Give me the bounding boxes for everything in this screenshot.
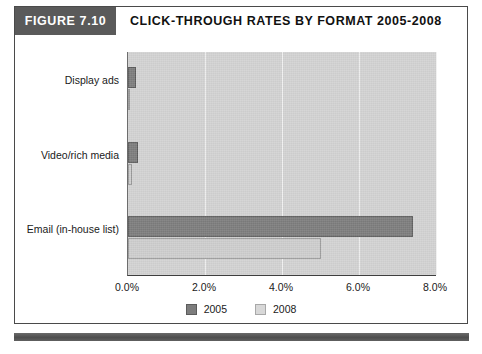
bar-2005-email-in-house-list bbox=[128, 216, 413, 237]
bar-2005-display-ads bbox=[128, 67, 136, 88]
bar-group bbox=[128, 142, 436, 186]
figure-number-badge: FIGURE 7.10 bbox=[15, 7, 116, 35]
figure-container: FIGURE 7.10 CLICK-THROUGH RATES BY FORMA… bbox=[14, 6, 468, 336]
bar-2008-display-ads bbox=[128, 89, 130, 110]
x-tick-label: 4.0% bbox=[251, 281, 311, 293]
page-footer-rule bbox=[14, 333, 469, 341]
legend-item-2005: 2005 bbox=[186, 303, 227, 315]
category-label: Display ads bbox=[23, 74, 119, 87]
legend-swatch-icon bbox=[186, 304, 197, 315]
figure-body: Display adsVideo/rich mediaEmail (in-hou… bbox=[14, 35, 468, 324]
legend-item-2008: 2008 bbox=[255, 303, 296, 315]
gridline bbox=[436, 52, 437, 275]
x-tick-label: 8.0% bbox=[405, 281, 465, 293]
legend-label: 2005 bbox=[204, 303, 227, 315]
bar-group bbox=[128, 67, 436, 111]
bar-2005-video-rich-media bbox=[128, 142, 138, 163]
x-tick-label: 6.0% bbox=[328, 281, 388, 293]
x-tick-label: 2.0% bbox=[174, 281, 234, 293]
chart-legend: 20052008 bbox=[15, 303, 467, 315]
bar-2008-email-in-house-list bbox=[128, 238, 321, 259]
plot-region bbox=[127, 52, 436, 276]
legend-swatch-icon bbox=[255, 304, 266, 315]
category-label: Email (in-house list) bbox=[23, 223, 119, 236]
bar-2008-video-rich-media bbox=[128, 164, 132, 185]
bar-group bbox=[128, 216, 436, 260]
bar-chart: Display adsVideo/rich mediaEmail (in-hou… bbox=[15, 35, 467, 322]
category-label: Video/rich media bbox=[23, 149, 119, 162]
legend-label: 2008 bbox=[273, 303, 296, 315]
figure-header: FIGURE 7.10 CLICK-THROUGH RATES BY FORMA… bbox=[14, 6, 468, 36]
figure-title: CLICK-THROUGH RATES BY FORMAT 2005-2008 bbox=[116, 7, 467, 35]
x-tick-label: 0.0% bbox=[97, 281, 157, 293]
